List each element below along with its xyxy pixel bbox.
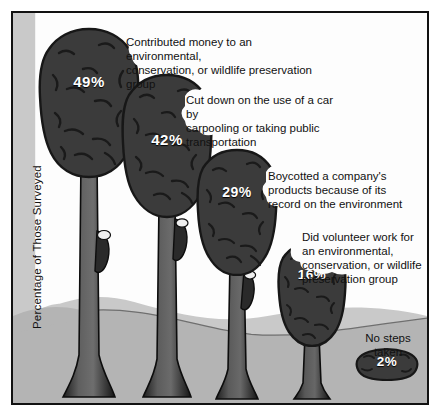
callout-cut-down-car-use: Cut down on the use of a car by carpooli… [172,85,345,143]
callout-line: Cut down on the use of a car by [186,93,345,121]
y-axis-title: Percentage of Those Surveyed [31,165,43,329]
infographic-root: 49% [0,0,433,415]
callout-line: Boycotted a company's [268,169,413,183]
callout-volunteer-work: Did volunteer work for an environmental,… [287,221,427,293]
callout-line: preservation group [302,272,427,286]
trunk [141,203,193,399]
callout-line: Contributed money to an environmental, [126,35,327,63]
branch-cut-end [176,219,188,227]
label-no-steps-taken: No steps taken [357,331,419,360]
trunk [214,261,260,401]
callout-line: record on the environment [268,197,413,211]
callout-line: Did volunteer work for [302,230,427,244]
trunk-body [63,159,115,397]
branch-cut-end [98,231,111,240]
chart-frame: 49% [11,11,429,405]
callout-line: taken [357,345,419,359]
callout-line: carpooling or taking public [186,121,345,135]
callout-line: an environmental, [302,244,427,258]
value-label: 29% [222,184,252,200]
callout-line: conservation, or wildlife [302,258,427,272]
callout-contributed-money: Contributed money to an environmental, c… [112,28,327,72]
trunk [61,159,117,399]
callout-boycotted-products: Boycotted a company's products because o… [253,161,413,219]
value-label: 49% [73,73,105,90]
callout-line: No steps [357,331,419,345]
callout-line: products because of its [268,183,413,197]
callout-line: transportation [186,135,345,149]
